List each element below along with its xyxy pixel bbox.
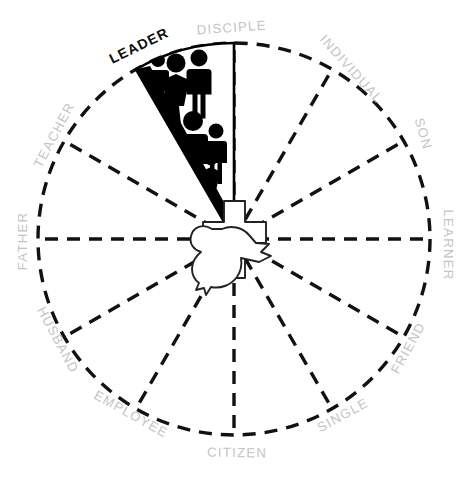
- segment-label-single: SINGLE: [315, 395, 371, 435]
- segment-label-employee: EMPLOYEE: [91, 387, 170, 440]
- wheel-canvas: DISCIPLE INDIVIDUAL SON LEARNER FRIEND S…: [0, 0, 471, 478]
- segment-label-son: SON: [412, 116, 435, 151]
- segment-label-learner: LEARNER: [441, 209, 456, 280]
- group-of-people-icon: [123, 50, 227, 244]
- leader-wedge[interactable]: [123, 43, 238, 243]
- segment-label-citizen: CITIZEN: [207, 444, 267, 460]
- segment-label-husband: HUSBAND: [34, 304, 82, 376]
- roles-wheel-diagram: DISCIPLE INDIVIDUAL SON LEARNER FRIEND S…: [0, 0, 471, 478]
- spoke-5: [234, 239, 332, 409]
- spoke-1: [234, 69, 332, 239]
- segment-label-individual: INDIVIDUAL: [317, 32, 386, 106]
- segment-label-disciple: DISCIPLE: [196, 18, 267, 38]
- segment-label-teacher: TEACHER: [31, 100, 78, 170]
- segment-label-father: FATHER: [15, 212, 30, 271]
